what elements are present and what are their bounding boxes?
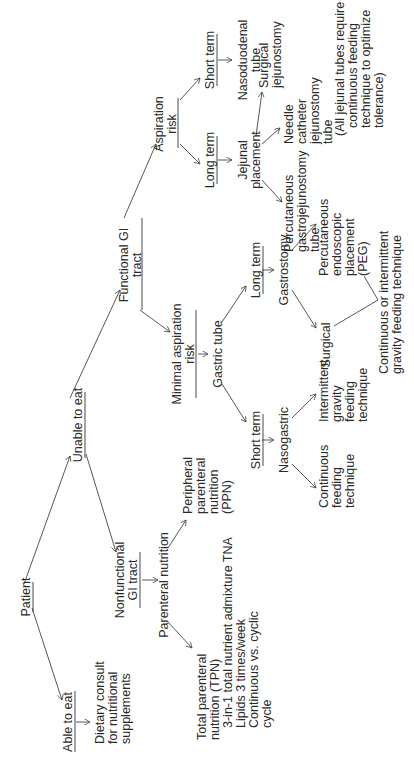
svg-text:for nutritional: for nutritional <box>106 672 120 744</box>
svg-text:parenteral: parenteral <box>194 458 208 514</box>
node-dietary-consult: Dietary consult for nutritional suppleme… <box>93 661 133 744</box>
node-aspiration-risk: Aspiration risk <box>152 96 179 152</box>
svg-text:Jejunal: Jejunal <box>236 140 250 180</box>
svg-text:Continuous: Continuous <box>317 445 331 508</box>
node-surgical-jejunostomy: Surgical jejunostomy <box>257 21 284 89</box>
node-parenteral-nutrition: Parenteral nutrition <box>157 532 171 638</box>
arrow-nasogastric-intermittent <box>292 394 316 418</box>
svg-text:supplements: supplements <box>119 673 133 744</box>
svg-text:Unable to eat: Unable to eat <box>71 387 85 462</box>
svg-text:continuous feeding: continuous feeding <box>346 23 360 128</box>
svg-text:Needle: Needle <box>282 104 296 144</box>
svg-text:jejunostomy: jejunostomy <box>270 21 284 89</box>
node-minimal-aspiration-risk: Minimal aspiration risk <box>170 304 197 405</box>
svg-text:tube: tube <box>308 228 322 252</box>
svg-text:technique: technique <box>356 368 370 422</box>
svg-text:Intermittent: Intermittent <box>317 359 331 422</box>
node-continuous-feeding: Continuous feeding technique <box>317 445 357 508</box>
svg-text:tolerance): tolerance) <box>372 72 386 128</box>
node-functional-gi-tract: Functional GI tract <box>117 228 144 302</box>
arrow-parenteral-tpn <box>168 622 192 648</box>
node-nonfunctional-gi-tract: Nonfunctional GI tract <box>113 542 140 618</box>
node-jejunal-placement: Jejunal placement <box>236 131 263 189</box>
svg-text:tract: tract <box>130 252 144 277</box>
svg-text:Gastric tube: Gastric tube <box>211 320 225 387</box>
svg-text:Nasogastric: Nasogastric <box>277 407 291 473</box>
svg-text:gravity: gravity <box>330 384 344 422</box>
node-gastric-long-term: Long term <box>249 242 263 298</box>
arrow-aspiration-long <box>180 144 200 164</box>
arrow-unable-functional <box>70 290 120 398</box>
svg-text:Nasoduodenal: Nasoduodenal <box>236 20 250 101</box>
svg-text:Surgical: Surgical <box>319 322 333 367</box>
svg-text:Dietary consult: Dietary consult <box>93 661 107 744</box>
svg-text:Percutaneous: Percutaneous <box>282 175 296 252</box>
svg-text:Lipids 3 times/week: Lipids 3 times/week <box>234 618 248 728</box>
svg-text:Surgical: Surgical <box>257 43 271 88</box>
node-duodenal-short-term: Short term <box>203 31 217 89</box>
arrow-patient-able <box>32 608 62 700</box>
node-tpn: Total parenteral nutrition (TPN) 3-in-1 … <box>195 537 274 740</box>
node-able-to-eat: Able to eat <box>61 691 75 752</box>
node-surgical-gastrostomy: Surgical <box>319 322 333 367</box>
svg-text:(All jejunal tubes require: (All jejunal tubes require <box>333 2 347 136</box>
svg-text:Long term: Long term <box>203 132 217 188</box>
node-jejunal-long-term: Long term <box>203 132 217 188</box>
svg-text:Short term: Short term <box>249 411 263 469</box>
node-unable-to-eat: Unable to eat <box>71 387 85 462</box>
svg-text:jejunostomy: jejunostomy <box>308 77 322 145</box>
svg-text:placement: placement <box>249 131 263 189</box>
svg-text:feeding: feeding <box>343 381 357 422</box>
svg-text:(PPN): (PPN) <box>220 480 234 514</box>
svg-text:Aspiration: Aspiration <box>152 96 166 152</box>
arrow-nasogastric-continuous <box>292 464 316 488</box>
svg-text:(PEG): (PEG) <box>356 241 370 276</box>
svg-text:placement: placement <box>343 218 357 276</box>
connector-surgical-feeding <box>334 300 378 326</box>
svg-text:Functional GI: Functional GI <box>117 228 131 302</box>
node-ppn: Peripheral parenteral nutrition (PPN) <box>181 457 234 514</box>
svg-text:catheter: catheter <box>295 99 309 144</box>
arrow-aspiration-short <box>180 78 200 100</box>
arrow-patient-unable <box>24 456 70 584</box>
svg-text:feeding: feeding <box>330 467 344 508</box>
svg-text:technique to optimize: technique to optimize <box>359 10 373 128</box>
arrow-functional-minimal <box>140 310 170 332</box>
svg-text:risk: risk <box>183 344 197 364</box>
node-patient: Patient <box>19 577 33 616</box>
node-needle-catheter: Needle catheter jejunostomy tube <box>282 77 335 145</box>
node-peg: Percutaneous endoscopic placement (PEG) <box>317 199 370 276</box>
svg-text:nutrition: nutrition <box>207 469 221 514</box>
arrow-gastrostomy-surgical <box>292 290 316 328</box>
arrow-jejunal-needle <box>262 128 280 144</box>
svg-text:Peripheral: Peripheral <box>181 457 195 514</box>
svg-text:gravity feeding technique: gravity feeding technique <box>390 235 404 374</box>
svg-text:Nonfunctional: Nonfunctional <box>113 542 127 618</box>
node-gastric-tube: Gastric tube <box>211 320 225 387</box>
node-intermittent-gravity: Intermittent gravity feeding technique <box>317 359 370 422</box>
arrow-unable-nonfunctional <box>86 454 116 552</box>
svg-text:Long term: Long term <box>249 242 263 298</box>
arrow-gastric-short <box>222 384 246 422</box>
svg-text:Patient: Patient <box>19 577 33 616</box>
svg-text:risk: risk <box>165 114 179 134</box>
svg-text:technique: technique <box>343 454 357 508</box>
node-pgj-tube: Percutaneous gastrojejunostomy tube <box>282 150 322 252</box>
svg-text:GI tract: GI tract <box>126 559 140 601</box>
svg-text:Continuous vs. cyclic: Continuous vs. cyclic <box>247 611 261 728</box>
node-gastrostomy-feeding: Continuous or intermittent gravity feedi… <box>377 230 404 374</box>
svg-text:3-in-1 total nutrient admixtur: 3-in-1 total nutrient admixture TNA <box>221 537 235 728</box>
arrow-jejunal-pgj <box>262 180 282 202</box>
arrow-functional-aspiration <box>124 144 156 218</box>
svg-text:Minimal aspiration: Minimal aspiration <box>170 304 184 405</box>
connector-peg-feeding <box>364 276 378 300</box>
jejunal-tubes-note: (All jejunal tubes require continuous fe… <box>333 2 386 136</box>
svg-text:Short term: Short term <box>203 31 217 89</box>
svg-text:cycle: cycle <box>260 699 274 728</box>
svg-text:nutrition (TPN): nutrition (TPN) <box>208 659 222 740</box>
svg-text:endoscopic: endoscopic <box>330 213 344 276</box>
svg-text:Able to eat: Able to eat <box>61 692 75 752</box>
svg-text:Total parenteral: Total parenteral <box>195 654 209 740</box>
svg-text:Continuous or intermittent: Continuous or intermittent <box>377 230 391 374</box>
node-gastric-short-term: Short term <box>249 411 263 469</box>
